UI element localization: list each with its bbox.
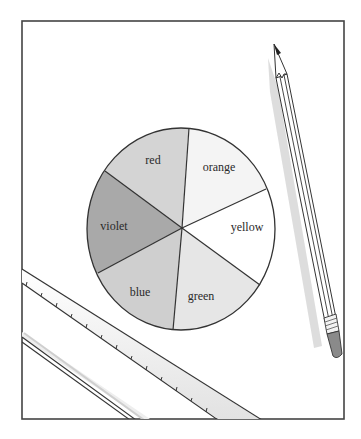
label-blue: blue xyxy=(130,285,151,299)
label-orange: orange xyxy=(203,160,236,174)
pencil-ferrule xyxy=(324,314,339,334)
label-red: red xyxy=(145,153,160,167)
label-violet: violet xyxy=(100,219,128,233)
label-green: green xyxy=(188,289,215,303)
color-wheel-illustration: red orange yellow green blue violet xyxy=(0,0,361,439)
label-yellow: yellow xyxy=(231,220,264,234)
